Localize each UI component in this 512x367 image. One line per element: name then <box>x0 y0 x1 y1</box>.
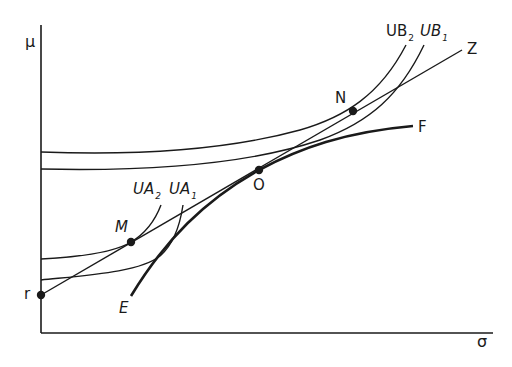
label-e: E <box>119 301 128 316</box>
portfolio-diagram: μ σ r M O N Z F E UB2 UB1 UA2 UA1 <box>0 0 512 367</box>
indifference-curve-ua1 <box>41 205 183 280</box>
y-axis-label: μ <box>25 34 35 50</box>
label-z: Z <box>467 42 477 57</box>
capital-market-line <box>41 50 462 295</box>
indifference-curve-ub2 <box>41 45 406 153</box>
label-ua2-base: UA <box>133 180 154 198</box>
label-r: r <box>24 287 30 302</box>
indifference-curve-ua2 <box>41 205 161 259</box>
label-ua1-base: UA <box>169 180 190 198</box>
label-o: O <box>253 178 265 193</box>
label-ub1-base: UB <box>420 22 441 40</box>
efficient-frontier <box>131 126 413 296</box>
label-f: F <box>418 120 427 135</box>
label-ua2: UA2 <box>133 182 161 201</box>
label-ub2: UB2 <box>386 24 414 43</box>
label-n: N <box>335 91 346 106</box>
point-r <box>37 291 45 299</box>
label-ua2-sub: 2 <box>155 191 161 201</box>
point-m <box>127 238 135 246</box>
point-n <box>349 107 357 115</box>
label-m: M <box>115 220 128 235</box>
x-axis-label: σ <box>477 334 487 350</box>
point-o <box>255 166 263 174</box>
label-ub2-base: UB <box>386 22 407 40</box>
label-ua1-sub: 1 <box>191 191 197 201</box>
label-ub1: UB1 <box>420 24 448 43</box>
label-ub1-sub: 1 <box>442 33 448 43</box>
label-ub2-sub: 2 <box>408 33 414 43</box>
indifference-curve-ub1 <box>41 45 424 169</box>
label-ua1: UA1 <box>169 182 197 201</box>
